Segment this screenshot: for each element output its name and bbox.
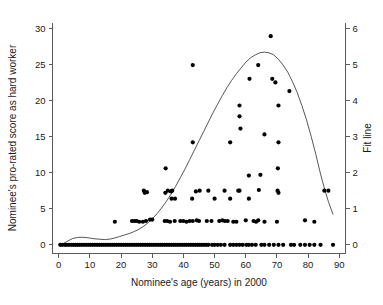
scatter-point xyxy=(222,243,226,247)
x-axis-tick-label: 80 xyxy=(303,259,314,270)
scatter-point xyxy=(209,219,213,223)
x-axis-tick-label: 50 xyxy=(209,259,220,270)
y-axis-right-ticks: 0123456 xyxy=(346,23,358,251)
scatter-point xyxy=(276,243,280,247)
y-axis-left-tick-label: 0 xyxy=(40,239,45,250)
scatter-point xyxy=(256,218,260,222)
scatter-point xyxy=(276,103,280,107)
scatter-point xyxy=(276,191,280,195)
scatter-point xyxy=(308,243,312,247)
scatter-point xyxy=(113,220,117,224)
scatter-point xyxy=(191,140,195,144)
scatter-point xyxy=(212,197,216,201)
scatter-point xyxy=(173,197,177,201)
scatter-point xyxy=(244,218,248,222)
scatter-point xyxy=(270,77,274,81)
scatter-point xyxy=(241,243,245,247)
scatter-point xyxy=(262,220,266,224)
y-axis-left-tick-label: 30 xyxy=(35,23,46,34)
x-axis-tick-label: 0 xyxy=(56,259,61,270)
scatter-point xyxy=(331,243,335,247)
scatter-point xyxy=(222,189,226,193)
scatter-point xyxy=(206,243,210,247)
y-axis-left-tick-label: 15 xyxy=(35,131,46,142)
scatter-point xyxy=(281,243,285,247)
scatter-point xyxy=(318,243,322,247)
x-axis-tick-label: 30 xyxy=(147,259,158,270)
scatter-point xyxy=(257,188,261,192)
scatter-point xyxy=(247,77,251,81)
x-axis-ticks: 0102030405060708090 xyxy=(56,254,344,270)
scatter-point xyxy=(287,89,291,93)
scatter-point xyxy=(250,243,254,247)
y-axis-left-title: Nominee's pro-rated score as hard worker xyxy=(7,44,18,231)
y-axis-right-tick-label: 6 xyxy=(353,23,358,34)
scatter-points-group xyxy=(58,34,335,247)
y-axis-right-tick-label: 0 xyxy=(353,239,358,250)
scatter-point xyxy=(173,219,177,223)
scatter-point xyxy=(145,190,149,194)
x-axis-tick-label: 90 xyxy=(334,259,345,270)
scatter-plot-figure: 051015202530 0123456 0102030405060708090… xyxy=(0,0,383,305)
y-axis-left-ticks: 051015202530 xyxy=(35,23,53,251)
scatter-point xyxy=(303,243,307,247)
scatter-point xyxy=(191,63,195,67)
scatter-point xyxy=(150,217,154,221)
scatter-point xyxy=(228,140,232,144)
scatter-point xyxy=(256,63,260,67)
x-axis-tick-label: 40 xyxy=(178,259,189,270)
scatter-point xyxy=(276,140,280,144)
y-axis-left-tick-label: 25 xyxy=(35,59,46,70)
y-axis-right-tick-label: 4 xyxy=(353,95,358,106)
scatter-point xyxy=(322,189,326,193)
scatter-point xyxy=(164,166,168,170)
scatter-point xyxy=(275,220,279,224)
scatter-point xyxy=(247,173,251,177)
scatter-point xyxy=(272,243,276,247)
scatter-point xyxy=(326,189,330,193)
scatter-point xyxy=(262,243,266,247)
scatter-point xyxy=(234,220,238,224)
scatter-point xyxy=(197,219,201,223)
scatter-point xyxy=(237,103,241,107)
y-axis-left-tick-label: 5 xyxy=(40,203,45,214)
scatter-point xyxy=(144,219,148,223)
scatter-point xyxy=(298,243,302,247)
scatter-point xyxy=(276,166,280,170)
scatter-point xyxy=(238,127,242,131)
y-axis-right-tick-label: 1 xyxy=(353,203,358,214)
scatter-point xyxy=(206,189,210,193)
scatter-point xyxy=(237,189,241,193)
y-axis-right-tick-label: 2 xyxy=(353,167,358,178)
scatter-point xyxy=(292,243,296,247)
y-axis-right-tick-label: 3 xyxy=(353,131,358,142)
scatter-point xyxy=(168,220,172,224)
y-axis-left-tick-label: 10 xyxy=(35,167,46,178)
y-axis-right-tick-label: 5 xyxy=(353,59,358,70)
x-axis-title: Nominee's age (years) in 2000 xyxy=(131,277,267,288)
scatter-point xyxy=(190,197,194,201)
scatter-point xyxy=(137,220,141,224)
scatter-point xyxy=(303,218,307,222)
chart-canvas: 051015202530 0123456 0102030405060708090… xyxy=(0,0,383,305)
scatter-point xyxy=(237,114,241,118)
x-axis-tick-label: 70 xyxy=(272,259,283,270)
scatter-point xyxy=(267,243,271,247)
scatter-point xyxy=(228,197,232,201)
scatter-point xyxy=(269,34,273,38)
y-axis-left-tick-label: 20 xyxy=(35,95,46,106)
y-axis-right-title: Fit line xyxy=(362,123,373,153)
scatter-point xyxy=(312,220,316,224)
scatter-point xyxy=(258,173,262,177)
scatter-point xyxy=(226,219,230,223)
scatter-point xyxy=(262,132,266,136)
fit-line-curve xyxy=(59,52,333,245)
scatter-point xyxy=(170,189,174,193)
scatter-point xyxy=(254,243,258,247)
x-axis-tick-label: 20 xyxy=(116,259,127,270)
x-axis-tick-label: 10 xyxy=(85,259,96,270)
scatter-point xyxy=(198,189,202,193)
scatter-point xyxy=(273,80,277,84)
scatter-point xyxy=(194,189,198,193)
scatter-point xyxy=(219,243,223,247)
